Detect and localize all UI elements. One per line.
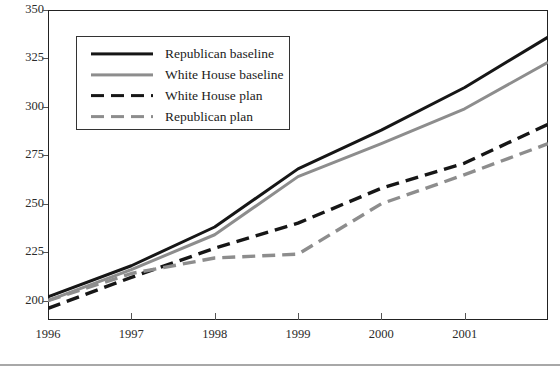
- legend-swatch-dashed-black-icon: [91, 90, 153, 102]
- legend-item-republican-baseline: Republican baseline: [77, 43, 289, 64]
- legend-label: White House plan: [165, 89, 262, 103]
- legend-item-white-house-plan: White House plan: [77, 85, 289, 106]
- legend-swatch-solid-gray-icon: [91, 69, 153, 81]
- y-axis-tick-label: 275: [8, 148, 44, 161]
- y-axis-tick-label: 225: [8, 245, 44, 258]
- legend-swatch-solid-black-icon: [91, 48, 153, 60]
- x-axis-tick-mark: [465, 313, 466, 320]
- y-axis-tick-label: 325: [8, 51, 44, 64]
- x-axis-tick-label: 1998: [202, 327, 227, 342]
- legend-label: White House baseline: [165, 68, 283, 82]
- x-axis-tick-mark: [131, 313, 132, 320]
- legend-item-white-house-baseline: White House baseline: [77, 64, 289, 85]
- x-axis-tick-mark: [298, 313, 299, 320]
- legend-label: Republican plan: [165, 110, 253, 124]
- y-axis-tick-label: 200: [8, 294, 44, 307]
- y-axis-tick-label: 300: [8, 100, 44, 113]
- x-axis-tick-mark: [381, 313, 382, 320]
- y-axis-tick-label: 350: [8, 3, 44, 16]
- legend-swatch-dashed-gray-icon: [91, 111, 153, 123]
- x-axis-tick-label: 1999: [286, 327, 311, 342]
- y-axis-tick-label: 250: [8, 197, 44, 210]
- legend-label: Republican baseline: [165, 47, 274, 61]
- x-axis-tick-label: 1997: [119, 327, 144, 342]
- x-axis-tick-label: 2001: [452, 327, 477, 342]
- legend-item-republican-plan: Republican plan: [77, 106, 289, 127]
- footer-divider: [0, 364, 560, 366]
- x-axis-tick-label: 2000: [369, 327, 394, 342]
- x-axis-tick-label: 1996: [36, 327, 61, 342]
- series-line: [48, 124, 548, 308]
- chart-legend: Republican baseline White House baseline…: [76, 36, 290, 130]
- chart-figure: 200225250275300325350 199619971998199920…: [0, 0, 560, 375]
- x-axis-tick-mark: [215, 313, 216, 320]
